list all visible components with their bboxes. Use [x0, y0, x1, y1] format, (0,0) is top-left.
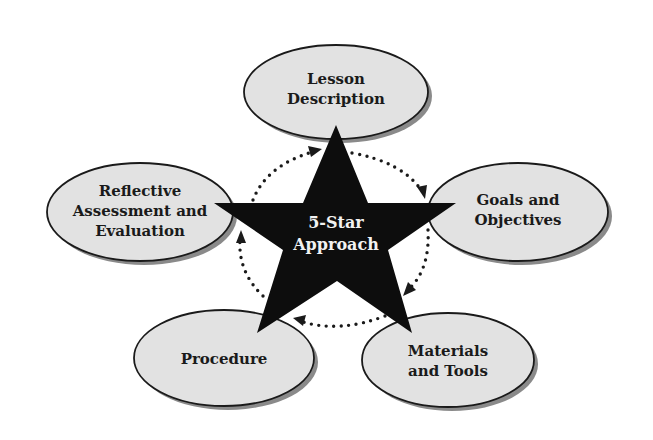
- node-lesson-description: Lesson Description: [244, 45, 432, 143]
- dotted-arc: [240, 240, 263, 296]
- arrow-head-icon: [236, 230, 246, 243]
- node-label: Reflective: [99, 182, 181, 200]
- arrow-head-icon: [293, 315, 306, 326]
- node-label: Objectives: [475, 211, 562, 229]
- node-goals-and-objectives: Goals and Objectives: [428, 163, 612, 265]
- node-label: Goals and: [476, 191, 560, 209]
- center-label: 5-Star: [308, 213, 364, 232]
- node-label: Evaluation: [95, 222, 185, 240]
- dotted-arc: [410, 230, 428, 288]
- node-label: Materials: [408, 342, 488, 360]
- node-reflective-assessment: Reflective Assessment and Evaluation: [47, 163, 237, 265]
- five-star-diagram: Lesson Description Reflective Assessment…: [0, 0, 653, 440]
- dotted-arc: [352, 153, 421, 190]
- node-label: Procedure: [181, 350, 268, 368]
- node-label: Lesson: [307, 70, 365, 88]
- dotted-arc: [303, 316, 385, 326]
- node-materials-and-tools: Materials and Tools: [362, 313, 538, 411]
- center-star: 5-Star Approach: [214, 125, 456, 333]
- arrow-head-icon: [417, 185, 427, 199]
- node-procedure: Procedure: [134, 310, 318, 410]
- center-label: Approach: [292, 235, 379, 254]
- dotted-arc: [253, 152, 312, 200]
- node-label: Assessment and: [72, 202, 208, 220]
- arrow-head-icon: [403, 282, 416, 296]
- node-label: Description: [287, 90, 385, 108]
- arrow-head-icon: [308, 146, 322, 157]
- node-label: and Tools: [408, 362, 488, 380]
